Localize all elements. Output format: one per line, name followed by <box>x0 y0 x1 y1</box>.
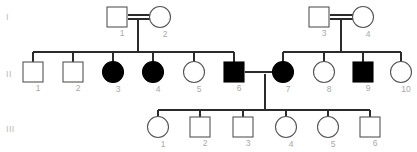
generation-label-iii: III <box>6 124 15 134</box>
symbol-iii-3-male-unaffected[interactable] <box>233 117 253 137</box>
symbol-iii-5-female-unaffected[interactable] <box>318 117 339 138</box>
symbol-ii-7-female-affected[interactable] <box>273 62 294 83</box>
symbol-ii-5-female-unaffected[interactable] <box>184 62 205 83</box>
individual-number-ii-2: 2 <box>76 83 81 93</box>
symbol-iii-6-male-unaffected[interactable] <box>360 117 380 137</box>
individual-number-iii-1: 1 <box>161 139 166 149</box>
individual-number-iii-6: 6 <box>373 138 378 148</box>
generation-label-i: I <box>6 12 9 22</box>
symbol-ii-1-male-unaffected[interactable] <box>23 62 43 82</box>
symbol-i-4-female-unaffected[interactable] <box>353 7 374 28</box>
individual-number-i-3: 3 <box>322 28 327 38</box>
individual-number-i-1: 1 <box>120 28 125 38</box>
individual-number-ii-8: 8 <box>327 84 332 94</box>
connector-line-group <box>33 15 401 117</box>
pedigree-diagram: IIIIII 123412345678910123456 <box>0 0 417 152</box>
pedigree-chart: IIIIII 123412345678910123456 <box>0 0 417 152</box>
individual-number-iii-2: 2 <box>203 138 208 148</box>
generation-label-group: IIIIII <box>6 12 15 134</box>
symbol-ii-3-female-affected[interactable] <box>103 62 124 83</box>
individual-number-ii-5: 5 <box>197 84 202 94</box>
symbol-i-1-male-unaffected[interactable] <box>107 7 127 27</box>
generation-label-ii: II <box>6 69 12 79</box>
individual-number-i-4: 4 <box>366 29 371 39</box>
symbol-i-3-male-unaffected[interactable] <box>309 7 329 27</box>
individual-number-ii-3: 3 <box>116 84 121 94</box>
individual-number-ii-9: 9 <box>366 83 371 93</box>
individual-number-ii-1: 1 <box>36 83 41 93</box>
individual-number-iii-4: 4 <box>289 139 294 149</box>
individual-number-ii-4: 4 <box>156 84 161 94</box>
symbol-iii-2-male-unaffected[interactable] <box>190 117 210 137</box>
symbol-ii-6-male-affected[interactable] <box>224 62 244 82</box>
symbol-ii-8-female-unaffected[interactable] <box>314 62 335 83</box>
individual-symbol-group <box>23 7 412 138</box>
symbol-iii-4-female-unaffected[interactable] <box>276 117 297 138</box>
individual-number-ii-7: 7 <box>286 84 291 94</box>
individual-number-iii-5: 5 <box>331 139 336 149</box>
symbol-ii-9-male-affected[interactable] <box>353 62 373 82</box>
symbol-iii-1-female-unaffected[interactable] <box>148 117 169 138</box>
individual-number-iii-3: 3 <box>246 138 251 148</box>
individual-number-ii-10: 10 <box>401 84 411 94</box>
symbol-ii-2-male-unaffected[interactable] <box>63 62 83 82</box>
individual-number-i-2: 2 <box>163 29 168 39</box>
symbol-ii-10-female-unaffected[interactable] <box>391 62 412 83</box>
symbol-i-2-female-unaffected[interactable] <box>150 7 171 28</box>
individual-id-label-group: 123412345678910123456 <box>36 28 411 149</box>
individual-number-ii-6: 6 <box>237 83 242 93</box>
symbol-ii-4-female-affected[interactable] <box>143 62 164 83</box>
